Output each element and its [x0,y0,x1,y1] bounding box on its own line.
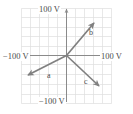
x-axis-positive-label: 100 V [100,52,123,61]
vector-diagram-figure: 100 V −100 V 100 V −100 V a b c [0,0,133,114]
vector-c [67,56,100,87]
vector-a-label: a [47,72,51,80]
y-axis-positive-label: 100 V [38,5,61,14]
vector-c-label: c [84,78,88,86]
vector-b-label: b [89,29,93,37]
x-axis-negative-label: −100 V [2,52,30,61]
y-axis-negative-label: −100 V [38,97,66,106]
